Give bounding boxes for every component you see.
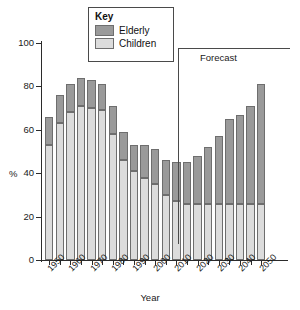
legend-item-children: Children [95,38,173,49]
bar-segment-children [151,184,159,260]
bar-segment-children [140,178,148,260]
bar-segment-elderly [119,132,127,160]
y-tick-label: 100 [4,38,34,48]
forecast-bracket [178,48,290,244]
bar-segment-elderly [56,95,64,123]
y-tick-label: 60 [4,125,34,135]
bar-segment-children [66,112,74,260]
bar-segment-elderly [87,80,95,108]
legend-label-elderly: Elderly [119,25,150,36]
y-tick-label: 20 [4,212,34,222]
bar-segment-elderly [151,149,159,184]
legend-key-box: Key Elderly Children [88,7,174,62]
legend-label-children: Children [119,38,156,49]
forecast-label: Forecast [200,52,237,63]
bar-segment-children [45,145,53,260]
bar-segment-elderly [66,84,74,112]
y-tick-label: 0 [4,255,34,265]
y-tick [36,260,42,261]
legend-title: Key [95,11,173,23]
bar-segment-children [119,160,127,260]
legend-swatch-children-icon [95,38,114,49]
legend-swatch-elderly-icon [95,25,114,36]
bar-segment-elderly [140,145,148,178]
y-tick-label: 80 [4,81,34,91]
y-tick-label: 40 [4,168,34,178]
bar-segment-children [109,134,117,260]
bar-segment-children [162,195,170,260]
bar-segment-elderly [109,106,117,134]
bar-segment-children [87,108,95,260]
legend-item-elderly: Elderly [95,25,173,36]
bar-segment-elderly [130,145,138,171]
x-axis-title: Year [0,292,300,303]
bar-segment-elderly [45,117,53,145]
population-dependency-chart: % Year 020406080100 19501960197019801990… [0,0,300,310]
bar-segment-elderly [77,78,85,106]
bar-segment-children [98,110,106,260]
bar-segment-children [56,123,64,260]
bar-segment-children [77,106,85,260]
bar-segment-elderly [98,84,106,110]
bar-segment-children [130,171,138,260]
bar-segment-elderly [162,160,170,195]
